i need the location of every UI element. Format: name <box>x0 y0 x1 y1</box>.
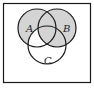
label-b: B <box>62 23 70 34</box>
label-a: A <box>25 23 33 34</box>
label-c: C <box>44 55 52 66</box>
venn-diagram: A B C <box>0 0 94 88</box>
